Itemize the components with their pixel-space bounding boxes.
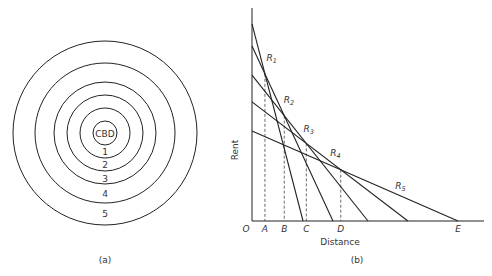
caption-a: (a) (99, 255, 112, 265)
zone-label-3: 3 (102, 174, 108, 184)
bid-rent-line-r3 (252, 75, 368, 221)
series-label-r5: R5 (395, 181, 405, 193)
boundary-label-d: D (337, 224, 344, 234)
boundary-label-b: B (281, 224, 287, 234)
boundary-label-a: A (261, 224, 268, 234)
origin-label: O (242, 224, 249, 234)
zone-label-1: 1 (102, 147, 108, 157)
zone-label-2: 2 (102, 160, 108, 170)
series-label-r3: R3 (304, 124, 314, 136)
boundary-label-c: C (303, 224, 310, 234)
y-axis-label: Rent (230, 139, 240, 160)
boundary-label-e: E (455, 224, 461, 234)
zone-label-5: 5 (102, 209, 108, 219)
cbd-label: CBD (95, 129, 114, 139)
series-label-r4: R4 (330, 148, 340, 160)
bid-rent-line-r5 (252, 131, 458, 221)
bid-rent-chart: ABCDER1R2R3R4R5 (252, 8, 484, 234)
series-label-r2: R2 (284, 95, 294, 107)
series-label-r1: R1 (266, 53, 276, 65)
bid-rent-line-r1 (252, 24, 303, 221)
caption-b: (b) (351, 255, 364, 265)
bid-rent-figure: CBD 1 2 3 4 5 (a) ABCDER1R2R3R4R5 Rent D… (0, 0, 492, 276)
x-axis-label: Distance (320, 237, 360, 247)
bid-rent-line-r4 (252, 102, 408, 221)
zone-label-4: 4 (102, 189, 108, 199)
